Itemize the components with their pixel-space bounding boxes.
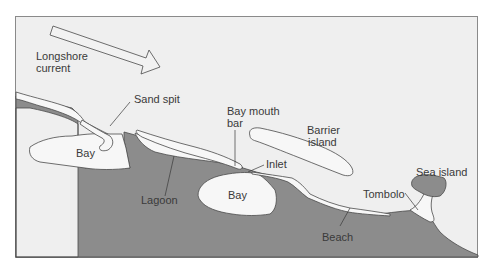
label-bay-mouth-bar-line2: bar [227, 117, 243, 129]
label-bay-mouth-bar: Bay mouth [227, 105, 280, 117]
label-inlet: Inlet [266, 158, 287, 170]
label-barrier-island: Barrier [307, 124, 340, 136]
coastal-landforms-diagram: Longshore current Sand spit Bay Lagoon B… [0, 0, 490, 268]
label-sand-spit: Sand spit [134, 93, 180, 105]
label-beach: Beach [322, 231, 353, 243]
label-lagoon: Lagoon [141, 194, 178, 206]
label-bay-left: Bay [76, 147, 95, 159]
label-barrier-island-line2: island [308, 136, 337, 148]
label-longshore-current: Longshore [36, 50, 88, 62]
label-bay-center: Bay [228, 189, 247, 201]
label-longshore-current-line2: current [36, 62, 70, 74]
label-sea-island: Sea island [416, 166, 467, 178]
label-tombolo: Tombolo [363, 188, 405, 200]
